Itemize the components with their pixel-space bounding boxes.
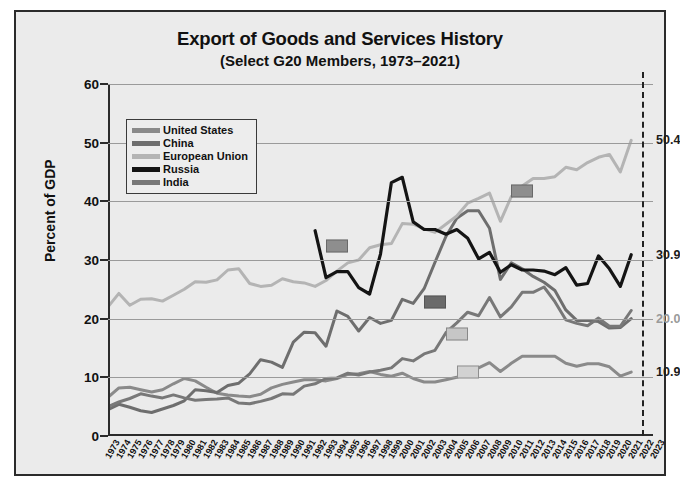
data-point-marker [511,184,533,197]
data-point-marker [446,327,468,340]
y-axis-tick-label: 20 [84,311,99,326]
gridline [108,260,653,261]
series-line [315,177,631,294]
legend-item[interactable]: India [132,176,248,189]
chart-subtitle: (Select G20 Members, 1973–2021) [16,52,664,69]
y-axis-tick-label: 0 [91,429,99,444]
legend-item[interactable]: United States [132,124,248,137]
gridline [108,377,653,378]
page-title: Export of Goods and Services History [16,28,664,50]
y-axis-tick-mark [100,376,108,378]
data-point-marker [457,366,479,379]
y-axis-tick-mark [100,259,108,261]
gridline [108,201,653,202]
legend-swatch [132,180,160,185]
y-axis-tick-label: 10 [84,370,99,385]
chart-frame: Export of Goods and Services History (Se… [14,10,666,476]
y-axis-tick-label: 30 [84,253,99,268]
y-axis-tick-label: 50 [84,135,99,150]
x-axis-ticks: 1973197419751976197719781979198019811982… [108,438,653,490]
legend-item-label: China [163,137,194,150]
y-axis-tick-mark [100,83,108,85]
y-axis-tick-mark [100,318,108,320]
y-axis-tick-mark [100,435,108,437]
legend-item-label: Russia [163,163,199,176]
series-line [108,287,631,407]
end-value-label: 10.9 [656,365,680,379]
x-axis-line [108,434,653,436]
legend-item-label: European Union [163,150,248,163]
chart-title-block: Export of Goods and Services History (Se… [16,28,664,69]
legend-swatch [132,167,160,172]
data-point-marker [326,239,348,252]
end-value-label: 20.0 [656,312,680,326]
legend-item[interactable]: European Union [132,150,248,163]
reference-line [642,72,644,436]
y-axis-tick-label: 40 [84,194,99,209]
legend-item-label: United States [163,124,233,137]
legend-item[interactable]: Russia [132,163,248,176]
chart-legend: United StatesChinaEuropean UnionRussiaIn… [126,119,257,194]
data-point-marker [424,296,446,309]
end-value-label: 50.4 [656,133,680,147]
gridline [108,84,653,85]
y-axis-tick-mark [100,142,108,144]
legend-item-label: India [163,176,189,189]
legend-item[interactable]: China [132,137,248,150]
gridline [108,319,653,320]
legend-swatch [132,154,160,159]
series-line [108,211,631,413]
legend-swatch [132,128,160,133]
end-value-label: 30.9 [656,248,680,262]
legend-swatch [132,141,160,146]
y-axis-tick-mark [100,200,108,202]
y-axis-tick-label: 60 [84,77,99,92]
y-axis-label: Percent of GDP [42,159,58,262]
